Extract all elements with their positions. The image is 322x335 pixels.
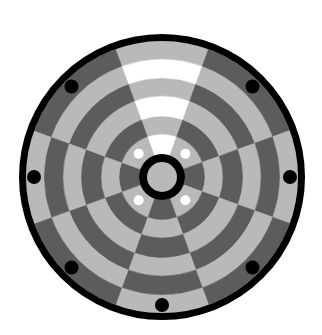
black-marker-dot xyxy=(246,261,260,275)
black-marker-dot xyxy=(155,298,169,312)
cell-left-ring-2[interactable] xyxy=(101,156,122,198)
black-marker-dot xyxy=(27,170,41,184)
cell-top-ring-2[interactable] xyxy=(141,116,183,137)
cell-top-ring-3[interactable] xyxy=(134,96,189,120)
cell-right-ring-3[interactable] xyxy=(219,149,243,204)
white-marker-dot xyxy=(134,149,144,159)
white-marker-dot xyxy=(180,149,190,159)
cell-bottom-ring-3[interactable] xyxy=(134,234,189,258)
center-hub[interactable] xyxy=(147,162,177,192)
black-marker-dot xyxy=(246,79,260,93)
black-marker-dot xyxy=(283,170,297,184)
cell-bottom-ring-2[interactable] xyxy=(141,217,183,238)
white-marker-dot xyxy=(134,195,144,205)
circular-board xyxy=(0,0,322,335)
cell-right-ring-2[interactable] xyxy=(202,156,223,198)
game-board xyxy=(0,0,322,335)
cell-left-ring-3[interactable] xyxy=(81,149,105,204)
black-marker-dot xyxy=(64,79,78,93)
black-marker-dot xyxy=(64,261,78,275)
white-marker-dot xyxy=(180,195,190,205)
